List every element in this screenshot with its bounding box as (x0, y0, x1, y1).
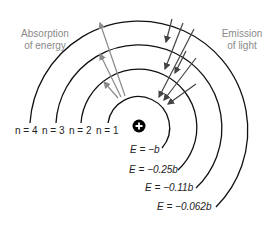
absorption-arrow-1-2 (104, 82, 118, 98)
absorption-line2: of energy (12, 40, 78, 52)
energy-label-n1: E = −b (130, 144, 159, 155)
emission-arrow-4-3 (166, 19, 172, 42)
absorption-arrow-1-4 (100, 23, 125, 96)
emission-line2: of light (217, 40, 267, 52)
level-label-n4: n = 4 (15, 125, 38, 136)
nucleus (133, 120, 146, 133)
emission-line1: Emission (217, 28, 267, 40)
level-label-n3: n = 3 (42, 125, 65, 136)
absorption-label: Absorption of energy (12, 28, 78, 52)
energy-label-n3: E = −0.11b (145, 182, 193, 193)
level-label-n2: n = 2 (69, 125, 92, 136)
energy-label-n2: E = −0.25b (129, 164, 178, 175)
emission-label: Emission of light (217, 28, 267, 52)
absorption-line1: Absorption (12, 28, 78, 40)
energy-label-n4: E = −0.062b (157, 201, 212, 212)
emission-arrow-2-1 (168, 84, 196, 104)
level-label-n1: n = 1 (96, 125, 119, 136)
